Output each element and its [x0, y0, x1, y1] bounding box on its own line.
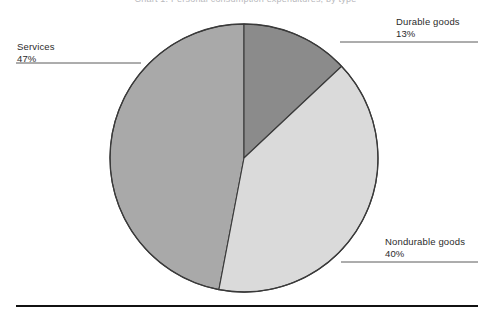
callout-services-category: Services: [17, 41, 55, 53]
callout-durable-goods: Durable goods 13%: [396, 16, 460, 39]
callout-services-percent: 47%: [17, 53, 55, 65]
callout-nondurable-goods-category: Nondurable goods: [385, 236, 465, 248]
callout-nondurable-goods: Nondurable goods 40%: [385, 236, 465, 259]
pie-diagram: [0, 0, 491, 315]
callout-services: Services 47%: [17, 41, 55, 64]
callout-nondurable-goods-percent: 40%: [385, 248, 465, 260]
callout-durable-goods-percent: 13%: [396, 28, 460, 40]
pie-chart-figure: Chart 1. Personal consumption expenditur…: [0, 0, 491, 315]
callout-durable-goods-category: Durable goods: [396, 16, 460, 28]
pie-slice-services[interactable]: [110, 24, 244, 290]
